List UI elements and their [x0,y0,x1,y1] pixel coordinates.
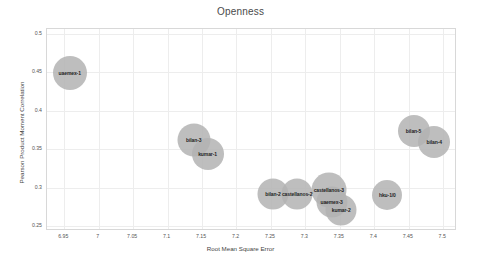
gridline-horizontal [47,111,455,112]
data-bubble-label: bilan-3 [186,137,201,143]
x-tick-label: 7.25 [265,233,275,239]
data-bubble-label: bilan-4 [427,139,442,145]
data-bubble-label: uaemex-1 [59,70,81,76]
data-bubble-label: kumar-1 [198,151,217,157]
gridline-horizontal [47,72,455,73]
x-tick-label: 7.4 [370,233,377,239]
y-tick-label: 0.5 [16,30,42,36]
x-tick-label: 7 [96,233,99,239]
gridline-vertical [168,29,169,229]
data-bubble-label: uaemex-3 [320,199,342,205]
gridline-vertical [99,29,100,229]
x-tick-label: 7.15 [196,233,206,239]
data-bubble-label: castellanos-3 [314,187,344,193]
data-bubble-label: kumar-2 [332,207,351,213]
x-tick-label: 6.95 [58,233,68,239]
data-bubble-label: castellanos-2 [282,191,312,197]
data-bubble-label: bilan-5 [406,128,421,134]
x-tick-label: 7.35 [334,233,344,239]
y-axis-label: Pearson Product Moment Correlation [18,63,25,203]
gridline-horizontal [47,34,455,35]
x-axis-label: Root Mean Square Error [0,245,481,252]
chart-root: Openness uaemex-1bilan-3kumar-1bilan-2ca… [0,0,481,270]
x-tick-label: 7.1 [163,233,170,239]
gridline-vertical [236,29,237,229]
gridline-vertical [133,29,134,229]
gridline-horizontal [47,226,455,227]
x-tick-label: 7.2 [232,233,239,239]
x-tick-label: 7.5 [439,233,446,239]
data-bubble-label: hku-1/0 [379,192,396,198]
gridline-horizontal [47,149,455,150]
y-tick-label: 0.25 [16,222,42,228]
plot-area: uaemex-1bilan-3kumar-1bilan-2castellanos… [46,28,456,230]
x-tick-label: 7.05 [127,233,137,239]
data-bubble-label: bilan-2 [265,191,280,197]
x-tick-label: 7.45 [403,233,413,239]
chart-title: Openness [0,6,481,17]
x-tick-label: 7.3 [301,233,308,239]
